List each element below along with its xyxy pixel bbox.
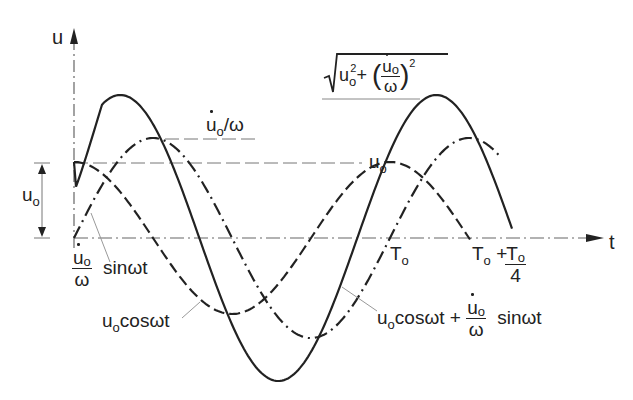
- diagram-canvas: [0, 0, 633, 400]
- cos-u: u: [102, 310, 113, 331]
- T0-text: T: [390, 243, 402, 264]
- T0q-a-sub: o: [484, 253, 491, 268]
- sum-num-sub: o: [478, 304, 485, 319]
- sum-curve-label: uocosωt + uoω sinωt: [377, 298, 542, 339]
- cos-leader-line: [182, 302, 200, 318]
- cos-term-label: uocosωt: [102, 311, 170, 330]
- sin-term-label: uoω sinωt: [72, 248, 148, 289]
- vel-amp-text: u: [206, 114, 217, 135]
- T0q-den: 4: [505, 265, 526, 285]
- T0q-fraction: To4: [505, 244, 526, 285]
- sum-den: ω: [466, 319, 486, 339]
- paren-close: ): [400, 59, 409, 90]
- amp-u: u: [339, 65, 349, 85]
- u-axis-label: u: [52, 27, 63, 47]
- amp-num-sub: o: [392, 62, 399, 77]
- sum-u-sub: o: [388, 317, 395, 332]
- amp-fraction: uoω: [381, 58, 400, 95]
- u0-level-label: uo: [369, 152, 387, 171]
- amp-u-sub: o: [349, 74, 356, 89]
- u0-dim-text: u: [22, 184, 33, 205]
- u0-level-sub: o: [380, 161, 387, 176]
- sin-num: u: [73, 247, 84, 268]
- dim-arrow-up-icon: [38, 164, 46, 174]
- sum-tail-a: cosωt +: [395, 307, 461, 328]
- amp-den: ω: [381, 77, 400, 95]
- cos-sub: o: [113, 320, 120, 335]
- velocity-amplitude-label: uo/ω: [206, 115, 244, 134]
- sum-leader-line: [342, 287, 377, 311]
- vel-amp-sub: o: [217, 124, 224, 139]
- sum-tail: sinωt: [497, 307, 541, 328]
- sum-fraction: uoω: [466, 298, 486, 339]
- sin-num-sub: o: [84, 254, 91, 269]
- u0-level-text: u: [369, 151, 380, 172]
- resultant-amplitude-label: uo2+ (uoω)2: [339, 58, 415, 95]
- t-axis-arrow-icon: [586, 234, 604, 242]
- T0-sub: o: [402, 253, 409, 268]
- vibration-diagram: u t uo uo uo/ω uoω sinωt uocosωt To To +…: [0, 0, 633, 400]
- sin-fraction: uoω: [72, 248, 92, 289]
- u0-dimension-label: uo: [22, 185, 40, 204]
- cos-tail: cosωt: [120, 310, 170, 331]
- amp-plus: +: [356, 65, 367, 85]
- amp-sq2: 2: [409, 57, 415, 69]
- amp-num: u: [382, 57, 391, 76]
- sum-num: u: [467, 297, 478, 318]
- sin-den: ω: [72, 269, 92, 289]
- T0q-a: T: [472, 243, 484, 264]
- t-axis-label: t: [609, 232, 615, 252]
- amp-sq: 2: [350, 62, 356, 74]
- T0-label: To: [390, 244, 409, 263]
- sin-tail: sinωt: [103, 257, 147, 278]
- dim-arrow-down-icon: [38, 227, 46, 237]
- T0q-num: T: [506, 243, 518, 264]
- paren-open: (: [372, 59, 381, 90]
- T0q-num-sub: o: [518, 250, 525, 265]
- u0-dim-sub: o: [33, 194, 40, 209]
- vel-amp-tail: /ω: [224, 114, 244, 135]
- T0-plus-quarter-label: To +To4: [472, 244, 526, 285]
- u-axis-arrow-icon: [70, 28, 78, 44]
- sum-u: u: [377, 307, 388, 328]
